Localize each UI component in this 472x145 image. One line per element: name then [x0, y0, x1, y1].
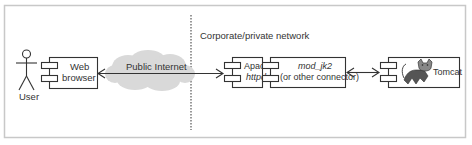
component-tomcat: Tomcat — [381, 58, 463, 88]
user-label: User — [19, 91, 39, 102]
component-web-browser: Web browser — [42, 58, 98, 89]
web-browser-label-line1: Web — [70, 61, 89, 72]
public-internet-label: Public Internet — [126, 61, 187, 72]
mod-jk2-label-line2: (or other connector) — [280, 72, 359, 82]
private-network-label: Corporate/private network — [200, 30, 310, 41]
mod-jk2-label-line1: mod_jk2 — [298, 61, 332, 71]
component-mod-jk2: mod_jk2 (or other connector) — [263, 58, 360, 88]
deployment-diagram: Corporate/private network User Public In… — [0, 0, 472, 145]
web-browser-label-line2: browser — [62, 72, 96, 83]
tomcat-label: Tomcat — [433, 67, 463, 77]
